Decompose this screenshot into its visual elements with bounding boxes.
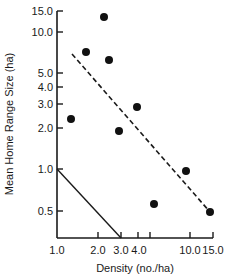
x-tick-label: 2.0: [90, 244, 105, 256]
y-tick-label: 3.0: [38, 98, 53, 110]
data-point: [82, 48, 90, 56]
data-point: [133, 103, 141, 111]
x-tick-label: 15.0: [202, 244, 223, 256]
y-ticks: [57, 11, 63, 211]
data-point: [182, 167, 190, 175]
x-tick-labels: 1.0 2.0 3.0 4.0 10.0 15.0: [49, 244, 223, 256]
solid-reference-line: [57, 169, 121, 238]
data-point: [150, 200, 158, 208]
y-tick-label: 15.0: [32, 5, 53, 17]
data-points: [67, 13, 214, 216]
data-point: [206, 208, 214, 216]
data-point: [115, 127, 123, 135]
y-tick-label: 0.5: [38, 205, 53, 217]
x-tick-label: 4.0: [131, 244, 146, 256]
y-tick-label: 5.0: [38, 67, 53, 79]
dashed-regression-line: [72, 54, 210, 212]
y-tick-label: 4.0: [38, 81, 53, 93]
data-point: [100, 13, 108, 21]
y-tick-label: 1.0: [38, 163, 53, 175]
x-tick-label: 1.0: [49, 244, 64, 256]
x-tick-label: 3.0: [113, 244, 128, 256]
data-point: [67, 115, 75, 123]
x-ticks: [98, 232, 213, 238]
y-tick-label: 10.0: [32, 26, 53, 38]
y-tick-labels: 15.0 10.0 5.0 4.0 3.0 2.0 1.0 0.5: [32, 5, 53, 217]
scatter-chart: 15.0 10.0 5.0 4.0 3.0 2.0 1.0 0.5 1.0 2.…: [0, 0, 232, 278]
y-axis-title: Mean Home Range Size (ha): [3, 53, 15, 195]
y-tick-label: 2.0: [38, 122, 53, 134]
x-tick-label: 10.0: [179, 244, 200, 256]
data-point: [105, 56, 113, 64]
x-axis-title: Density (no./ha): [96, 262, 174, 274]
